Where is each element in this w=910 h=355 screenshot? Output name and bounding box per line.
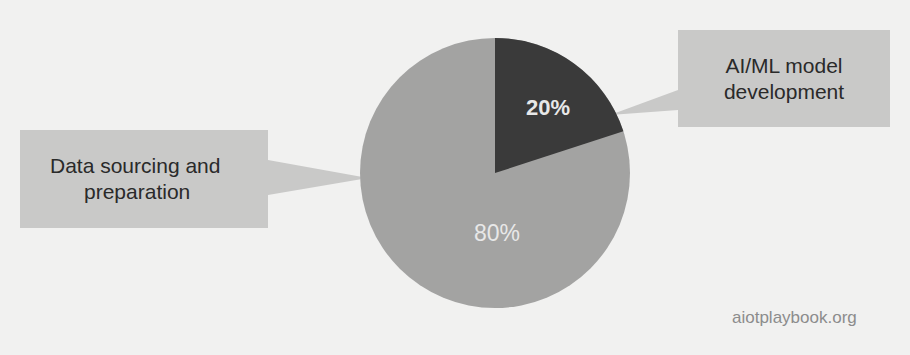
right-callout-pointer [610,90,678,115]
left-callout-pointer [268,160,368,195]
slice-label-20: 20% [526,95,570,121]
callout-left-line1: Data sourcing and [50,153,220,179]
callout-left-line2: preparation [50,179,190,205]
watermark: aiotplaybook.org [732,308,857,328]
callout-right-line1: AI/ML model [725,53,842,79]
callout-right-line2: development [724,79,844,105]
callout-ai-ml: AI/ML model development [678,30,890,127]
slice-label-80: 80% [474,220,520,247]
callout-data-sourcing: Data sourcing and preparation [20,130,268,228]
